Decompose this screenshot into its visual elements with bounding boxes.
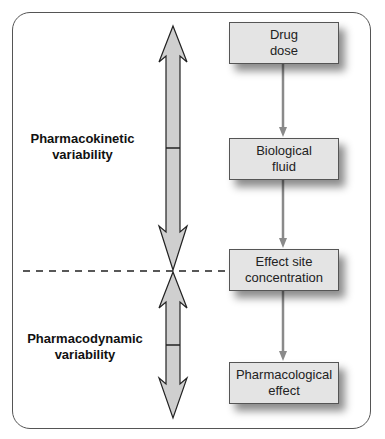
effect-site-concentration-label: Effect site concentration <box>245 254 323 286</box>
pharmacokinetic-double-arrow <box>159 26 187 270</box>
biological-fluid-label: Biological fluid <box>256 143 312 175</box>
effect-site-concentration-box: Effect site concentration <box>229 249 339 291</box>
pharmacodynamic-variability-label: Pharmacodynamic variability <box>26 331 144 363</box>
pharmacological-effect-label: Pharmacological effect <box>236 367 332 399</box>
connector-arrows <box>279 64 287 361</box>
pharmacological-effect-box: Pharmacological effect <box>229 362 339 404</box>
drug-dose-label: Drug dose <box>270 27 298 59</box>
pharmacodynamic-double-arrow <box>159 272 187 418</box>
pharmacokinetic-variability-label: Pharmacokinetic variability <box>30 131 135 163</box>
biological-fluid-box: Biological fluid <box>229 138 339 180</box>
drug-dose-box: Drug dose <box>229 22 339 64</box>
